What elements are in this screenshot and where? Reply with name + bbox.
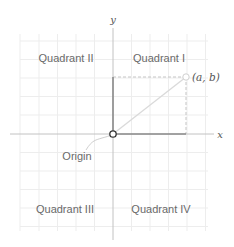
quadrant-ii-label: Quadrant II [38, 52, 93, 64]
origin-label: Origin [62, 150, 91, 162]
quadrant-i-label: Quadrant I [133, 52, 185, 64]
point-marker [183, 74, 189, 80]
origin-marker [110, 131, 116, 137]
origin-leader-curve [86, 135, 111, 150]
y-axis-label: y [110, 14, 116, 25]
quadrant-iii-label: Quadrant III [36, 203, 94, 215]
x-axis-label: x [217, 129, 223, 140]
quadrant-iv-label: Quadrant IV [131, 203, 190, 215]
coordinate-plane-diagram: y x Quadrant II Quadrant I Quadrant III … [0, 0, 234, 247]
point-label: (a, b) [192, 71, 220, 83]
